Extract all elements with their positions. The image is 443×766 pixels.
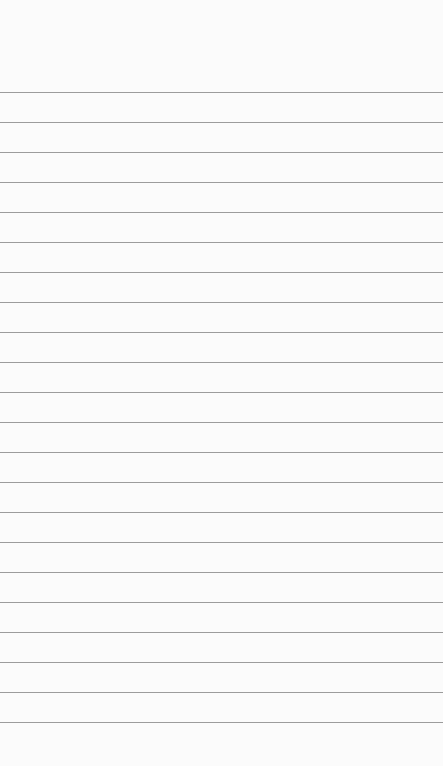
ruled-line (0, 482, 443, 483)
ruled-line (0, 182, 443, 183)
ruled-line (0, 632, 443, 633)
ruled-line (0, 722, 443, 723)
ruled-line (0, 572, 443, 573)
ruled-line (0, 662, 443, 663)
ruled-line (0, 542, 443, 543)
ruled-line (0, 362, 443, 363)
ruled-line (0, 122, 443, 123)
lined-paper (0, 0, 443, 766)
ruled-line (0, 332, 443, 333)
ruled-line (0, 152, 443, 153)
ruled-line (0, 272, 443, 273)
ruled-line (0, 692, 443, 693)
ruled-line (0, 422, 443, 423)
ruled-line (0, 212, 443, 213)
ruled-line (0, 242, 443, 243)
ruled-line (0, 92, 443, 93)
ruled-line (0, 392, 443, 393)
ruled-line (0, 512, 443, 513)
ruled-line (0, 302, 443, 303)
ruled-line (0, 452, 443, 453)
ruled-line (0, 602, 443, 603)
